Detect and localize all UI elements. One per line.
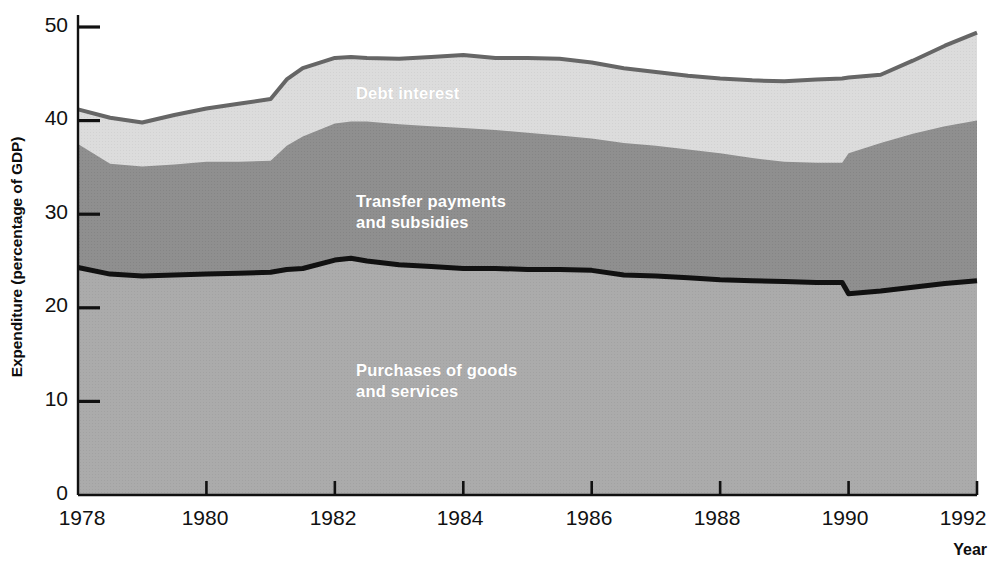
y-tick-label-40: 40	[45, 107, 68, 128]
chart-container: Expenditure (percentage of GDP) Year 50 …	[0, 0, 995, 571]
stacked-area-layers	[78, 33, 977, 495]
x-tick-label-1982: 1982	[310, 506, 357, 530]
x-tick-label-1984: 1984	[437, 506, 484, 530]
x-tick-label-1992: 1992	[940, 506, 987, 530]
x-tick-label-1988: 1988	[694, 506, 741, 530]
y-tick-label-50: 50	[45, 14, 68, 35]
area-chart-plot	[0, 0, 995, 571]
y-tick-label-10: 10	[45, 388, 68, 409]
x-tick-label-1986: 1986	[566, 506, 613, 530]
y-tick-label-20: 20	[45, 294, 68, 315]
band-label-debt-interest: Debt interest	[356, 83, 459, 104]
y-axis-tick-labels: 50 40 30 20 10 0	[28, 0, 68, 571]
y-tick-label-0: 0	[56, 482, 68, 503]
y-axis-title: Expenditure (percentage of GDP)	[8, 7, 26, 507]
band-label-purchases: Purchases of goods and services	[356, 360, 517, 402]
band-label-transfer-payments: Transfer payments and subsidies	[356, 191, 506, 233]
area-layer-0	[78, 258, 977, 495]
x-tick-label-1978: 1978	[59, 506, 106, 530]
y-tick-label-30: 30	[45, 201, 68, 222]
x-tick-label-1980: 1980	[182, 506, 229, 530]
x-axis-title: Year	[953, 541, 987, 559]
x-tick-label-1990: 1990	[822, 506, 869, 530]
